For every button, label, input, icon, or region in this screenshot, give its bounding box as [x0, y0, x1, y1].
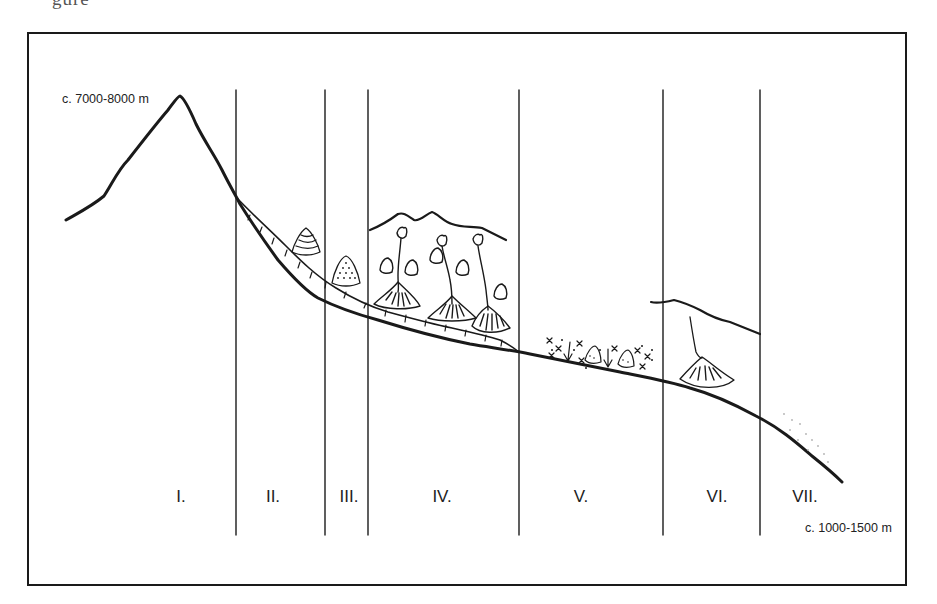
rock-clast	[430, 248, 443, 263]
altitudinal-zonation-diagram	[0, 0, 937, 604]
dotted-debris-cone	[332, 256, 360, 286]
debris-fan-1	[374, 282, 420, 309]
rock-clast	[405, 260, 418, 275]
zone-vi-stream	[690, 317, 702, 358]
zone-label-I: I.	[176, 487, 185, 507]
zone-vi-alluvial-fan	[680, 357, 734, 387]
zone-boundaries	[236, 90, 760, 535]
rock-clast	[380, 258, 393, 273]
zone-iv-ridge	[370, 212, 506, 240]
tributary-source-1	[397, 227, 407, 238]
banded-moraine-cone	[292, 228, 320, 255]
tributary-source-2	[437, 235, 447, 246]
rock-clast	[456, 260, 469, 275]
tributary-fans	[374, 227, 510, 332]
mountain-profile-line	[66, 96, 842, 482]
elevation-label-top: c. 7000-8000 m	[62, 92, 149, 106]
zone-label-VII: VII.	[792, 487, 818, 507]
debris-clast	[585, 346, 601, 363]
flow-arrow	[564, 342, 572, 361]
debris-fan-3	[472, 306, 510, 332]
tributary-stream-2	[442, 246, 452, 304]
elevation-label-bottom: c. 1000-1500 m	[805, 521, 892, 535]
zone-label-III: III.	[340, 487, 359, 507]
tributary-source-3	[473, 234, 483, 245]
zone-label-VI: VI.	[707, 487, 728, 507]
tributary-stream-3	[478, 246, 488, 310]
glacier-crevasse-ticks	[248, 215, 502, 346]
zone-label-V: V.	[574, 487, 589, 507]
flow-arrow	[604, 349, 612, 367]
rock-clast	[494, 284, 507, 299]
zone-label-IV: IV.	[432, 487, 451, 507]
zone-vi-ridge	[651, 300, 760, 334]
zone-label-II: II.	[266, 487, 280, 507]
debris-clast	[618, 350, 634, 367]
